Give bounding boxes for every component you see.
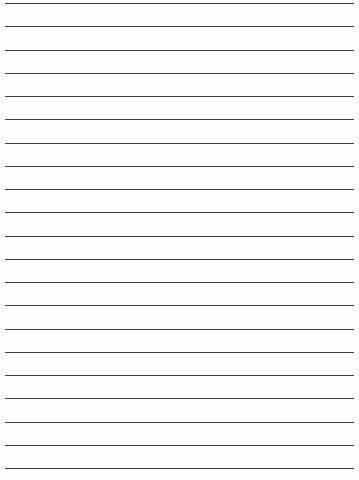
ruled-line <box>5 73 354 74</box>
ruled-line <box>5 305 354 306</box>
ruled-line <box>5 143 354 144</box>
ruled-line <box>5 189 354 190</box>
ruled-line <box>5 96 354 97</box>
ruled-line <box>5 3 354 4</box>
ruled-line <box>5 212 354 213</box>
ruled-line <box>5 236 354 237</box>
ruled-line <box>5 422 354 423</box>
ruled-line <box>5 166 354 167</box>
ruled-line <box>5 26 354 27</box>
ruled-line <box>5 398 354 399</box>
ruled-line <box>5 329 354 330</box>
ruled-line <box>5 50 354 51</box>
ruled-line <box>5 282 354 283</box>
ruled-line <box>5 468 354 469</box>
ruled-line <box>5 259 354 260</box>
lined-paper-page <box>0 0 359 480</box>
ruled-line <box>5 375 354 376</box>
ruled-line <box>5 119 354 120</box>
ruled-line <box>5 445 354 446</box>
ruled-line <box>5 352 354 353</box>
